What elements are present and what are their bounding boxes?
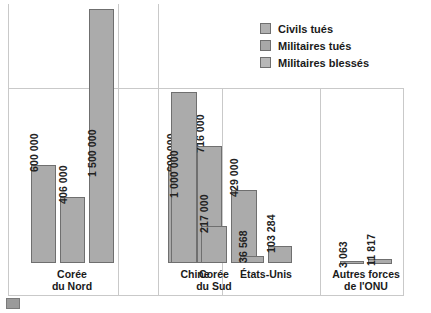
chart-panel-frame-upper — [8, 4, 222, 90]
bar-chart: 600 000 406 000 1 500 000 Corée du Nord … — [0, 0, 431, 313]
legend-label-militaires-blesses: Militaires blessés — [278, 57, 369, 69]
legend-swatch-icon-militaires-blesses — [260, 57, 271, 68]
value-label-g3-b1: 1 000 000 — [168, 150, 180, 198]
group-separator-1 — [118, 4, 119, 296]
legend-swatch-icon-civils-tues — [260, 23, 271, 34]
category-label-coree-du-nord: Corée du Nord — [26, 268, 118, 292]
value-label-g1-b2: 406 000 — [57, 165, 69, 204]
category-label-etats-unis: États-Unis — [220, 268, 312, 280]
source-marker-icon — [6, 298, 20, 309]
value-label-g1-b1: 600 000 — [28, 133, 40, 172]
legend-label-civils-tues: Civils tués — [278, 23, 333, 35]
value-label-g5-b1: 3 063 — [337, 241, 349, 268]
category-label-autres-forces-onu: Autres forces de l'ONU — [318, 268, 414, 292]
bar-coree-du-nord-militaires-tues — [60, 197, 85, 263]
legend-item-civils-tues: Civils tués — [260, 20, 369, 37]
legend-swatch-icon-militaires-tues — [260, 40, 271, 51]
legend-label-militaires-tues: Militaires tués — [278, 40, 351, 52]
bar-coree-du-nord-civils-tues — [31, 165, 56, 263]
chart-legend: Civils tués Militaires tués Militaires b… — [260, 20, 369, 71]
group-separator-4 — [320, 88, 321, 296]
value-label-g1-b3: 1 500 000 — [86, 129, 98, 177]
group-separator-3 — [222, 88, 223, 296]
value-label-g3-b2: 217 000 — [198, 194, 210, 233]
value-label-g4-b1: 36 568 — [237, 230, 249, 263]
legend-item-militaires-blesses: Militaires blessés — [260, 54, 369, 71]
value-label-g4-b2: 103 284 — [265, 214, 277, 253]
value-label-g5-b2: 11 817 — [365, 234, 377, 266]
value-label-g3-b3: 429 000 — [228, 158, 240, 197]
group-separator-2 — [158, 4, 159, 296]
legend-item-militaires-tues: Militaires tués — [260, 37, 369, 54]
